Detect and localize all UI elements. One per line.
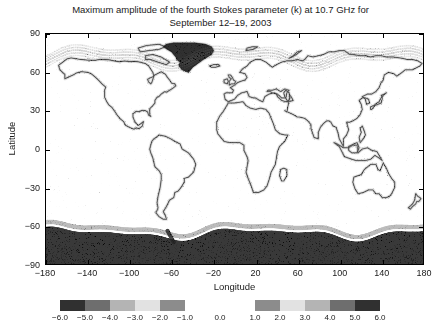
colorbar-tick-label: −4.0 (102, 313, 118, 322)
y-axis-tick (419, 227, 423, 228)
colorbar-cell (255, 300, 280, 311)
y-axis-tick-label: 30 (10, 105, 40, 115)
chart-title-line-1: Maximum amplitude of the fourth Stokes p… (0, 3, 441, 16)
y-axis-tick (419, 150, 423, 151)
map-plot-area (45, 33, 424, 265)
y-axis-tick-label: 90 (10, 28, 40, 38)
world-map-heatmap (46, 34, 423, 264)
x-axis-tick-label: −140 (77, 268, 97, 278)
y-axis-tick (46, 150, 50, 151)
x-axis-tick (257, 34, 258, 38)
colorbar: −6.0−5.0−4.0−3.0−2.0−1.01.02.03.04.05.06… (0, 300, 441, 330)
x-axis-tick-label: 20 (251, 268, 261, 278)
colorbar-tick-label: −2.0 (152, 313, 168, 322)
y-axis-tick (46, 227, 50, 228)
colorbar-cell (160, 300, 185, 311)
y-axis-tick (46, 34, 50, 35)
colorbar-cell (85, 300, 110, 311)
colorbar-segment-negative (60, 300, 185, 311)
x-axis-tick (46, 260, 47, 264)
y-axis-tick-label: 0 (10, 144, 40, 154)
x-axis-tick (172, 34, 173, 38)
colorbar-tick-label: 2.0 (274, 313, 285, 322)
colorbar-tick-label: 1.0 (249, 313, 260, 322)
x-axis-label: Longitude (45, 281, 424, 292)
colorbar-cell (280, 300, 305, 311)
x-axis-tick (130, 34, 131, 38)
y-axis-tick (46, 189, 50, 190)
y-axis-tick-label: −90 (10, 260, 40, 270)
colorbar-tick-label: −3.0 (127, 313, 143, 322)
colorbar-cell (330, 300, 355, 311)
y-axis-tick (419, 111, 423, 112)
x-axis-tick (88, 34, 89, 38)
x-axis-tick (341, 260, 342, 264)
colorbar-tick-label: 6.0 (374, 313, 385, 322)
x-axis-tick-label: −60 (164, 268, 179, 278)
figure-container: Maximum amplitude of the fourth Stokes p… (0, 0, 441, 333)
x-axis-tick (383, 34, 384, 38)
colorbar-tick-label: 4.0 (324, 313, 335, 322)
x-axis-tick-label: −100 (119, 268, 139, 278)
x-axis-tick-label: 60 (293, 268, 303, 278)
x-axis-tick-label: 100 (332, 268, 347, 278)
colorbar-cell (305, 300, 330, 311)
y-axis-tick (419, 34, 423, 35)
colorbar-cell (110, 300, 135, 311)
colorbar-cell (135, 300, 160, 311)
colorbar-cell (355, 300, 380, 311)
x-axis-tick-label: 180 (416, 268, 431, 278)
x-axis-tick-label: −20 (206, 268, 221, 278)
colorbar-cell (60, 300, 85, 311)
chart-title-line-2: September 12–19, 2003 (0, 16, 441, 29)
colorbar-tick-label: −6.0 (52, 313, 68, 322)
y-axis-tick-label: −60 (10, 221, 40, 231)
x-axis-tick (299, 34, 300, 38)
colorbar-tick-label: −1.0 (177, 313, 193, 322)
x-axis-tick-label: 140 (374, 268, 389, 278)
y-axis-tick (46, 73, 50, 74)
y-axis-tick (419, 73, 423, 74)
colorbar-tick-label: 3.0 (299, 313, 310, 322)
x-axis-tick (383, 260, 384, 264)
x-axis-tick (214, 260, 215, 264)
colorbar-zero-label: 0.0 (214, 313, 225, 322)
colorbar-tick-label: 5.0 (349, 313, 360, 322)
x-axis-tick (88, 260, 89, 264)
y-axis-tick-label: −30 (10, 183, 40, 193)
colorbar-tick-label: −5.0 (77, 313, 93, 322)
colorbar-segment-positive (255, 300, 380, 311)
y-axis-tick (419, 189, 423, 190)
x-axis-tick (299, 260, 300, 264)
x-axis-tick (257, 260, 258, 264)
x-axis-tick (130, 260, 131, 264)
x-axis-tick (172, 260, 173, 264)
x-axis-tick (341, 34, 342, 38)
chart-title: Maximum amplitude of the fourth Stokes p… (0, 3, 441, 29)
y-axis-tick-label: 60 (10, 67, 40, 77)
x-axis-tick (214, 34, 215, 38)
y-axis-tick (46, 111, 50, 112)
